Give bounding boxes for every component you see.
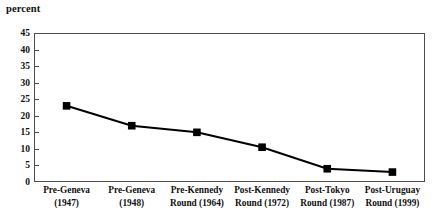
tariff-line-chart: percent 454035302520151050 Pre-Geneva(19… [0, 0, 439, 220]
x-axis-category-label: Post-KennedyRound (1972) [234, 184, 290, 209]
x-axis-category-label: Pre-Geneva(1947) [43, 184, 90, 209]
x-axis-category-label-line1: Post-Tokyo [305, 185, 350, 195]
data-point-marker [128, 122, 136, 130]
y-axis-tick-label: 0 [0, 177, 30, 187]
data-point-marker [63, 102, 71, 110]
x-axis-category-label: Pre-Geneva(1948) [108, 184, 155, 209]
data-point-marker [258, 143, 266, 151]
y-axis-tick [34, 50, 39, 51]
x-axis-category-label-line1: Pre-Kennedy [171, 185, 224, 195]
x-axis-category-label-line2: (1948) [108, 197, 155, 210]
x-axis-category-label-line2: Round (1987) [300, 197, 354, 210]
y-axis-tick-label: 45 [0, 28, 30, 38]
y-axis-title: percent [6, 3, 40, 14]
y-axis-tick-labels: 454035302520151050 [0, 33, 30, 182]
x-axis-category-label-line1: Pre-Geneva [43, 185, 90, 195]
y-axis-tick-label: 5 [0, 160, 30, 170]
y-axis-tick [34, 149, 39, 150]
y-axis-tick-label: 15 [0, 127, 30, 137]
y-axis-tick [34, 99, 39, 100]
x-axis-category-labels: Pre-Geneva(1947)Pre-Geneva(1948)Pre-Kenn… [34, 184, 425, 218]
y-axis-tick [34, 66, 39, 67]
x-axis-category-label: Pre-KennedyRound (1964) [170, 184, 224, 209]
y-axis-tick-label: 10 [0, 144, 30, 154]
series-line [67, 106, 393, 172]
data-point-marker [193, 129, 201, 137]
x-axis-category-label-line2: (1947) [43, 197, 90, 210]
y-axis-tick [34, 132, 39, 133]
y-axis-tick [34, 165, 39, 166]
data-point-marker [389, 168, 397, 176]
x-axis-category-label-line1: Post-Kennedy [234, 185, 290, 195]
x-axis-category-label-line2: Round (1999) [365, 197, 420, 210]
y-axis-tick-label: 25 [0, 94, 30, 104]
y-axis-tick-label: 35 [0, 61, 30, 71]
data-point-marker [323, 165, 331, 173]
x-axis-category-label: Post-TokyoRound (1987) [300, 184, 354, 209]
x-axis-category-label-line2: Round (1964) [170, 197, 224, 210]
y-axis-tick-label: 40 [0, 45, 30, 55]
data-series-layer [34, 33, 425, 182]
x-axis-category-label-line2: Round (1972) [234, 197, 290, 210]
x-axis-category-label-line1: Pre-Geneva [108, 185, 155, 195]
y-axis-tick-label: 20 [0, 111, 30, 121]
y-axis-tick [34, 116, 39, 117]
x-axis-category-label-line1: Post-Uruguay [365, 185, 420, 195]
x-axis-category-label: Post-UruguayRound (1999) [365, 184, 420, 209]
y-axis-tick-label: 30 [0, 78, 30, 88]
y-axis-tick [34, 83, 39, 84]
